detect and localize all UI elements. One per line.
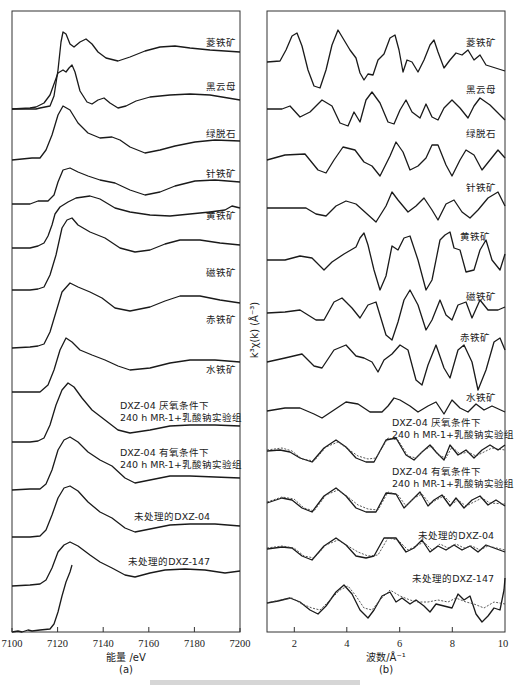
panel-b-xtick-label: 2 [292,638,297,649]
panel-b: k³χ(k) (Å⁻³) 2 4 6 8 10 波数/Å⁻¹ (b) [248,11,514,675]
panel-a-xtick-label: 7100 [2,638,23,649]
curve-label: DXZ-04 厌氧条件下 [392,417,481,428]
curve-label: 水铁矿 [206,364,236,375]
panel-b-y-axis-label: k³χ(k) (Å⁻³) [248,302,260,358]
panel-b-x-ticks [294,627,452,632]
panel-b-xtick-label: 10 [498,638,509,649]
curve-label: 针铁矿 [206,168,236,179]
curve-label: 绿脱石 [466,128,496,139]
xanes-curve-pyrite [12,196,240,248]
panel-a-xtick-label: 7200 [230,638,251,649]
xanes-curve-bottom-reference [12,565,72,632]
curve-label: 240 h MR-1+乳酸钠实验组 [120,412,242,423]
panel-b-xtick-label: 6 [397,638,402,649]
curve-label: 未处理的DXZ-147 [412,573,494,584]
panel-a-x-axis-label: 能量 /eV [106,651,146,663]
curve-label: DXZ-04 有氧条件下 [392,466,481,477]
curve-label: 绿脱石 [206,128,236,139]
curve-label: 赤铁矿 [460,332,490,343]
curve-label: DXZ-04 有氧条件下 [120,447,209,458]
curve-label: 240 h MR-1+乳酸钠实验组 [120,459,242,470]
curve-label: 针铁矿 [466,182,496,193]
panel-b-xtick-label: 4 [344,638,350,649]
curve-label: 黑云母 [206,81,236,92]
curve-label: 赤铁矿 [206,314,236,325]
curve-label: 菱铁矿 [466,37,496,48]
panel-b-x-axis-label: 波数/Å⁻¹ [366,651,406,663]
curve-label: 菱铁矿 [206,37,236,48]
panel-b-sublabel: (b) [379,664,393,675]
curve-label: 磁铁矿 [466,291,496,302]
curve-label: 水铁矿 [466,392,496,403]
xanes-curve-magnetite [12,218,240,290]
curve-label: 磁铁矿 [206,267,236,278]
figure: 7100 7120 7140 7160 7180 7200 能量 /eV (a)… [0,0,515,685]
panel-a-xtick-label: 7180 [184,638,205,649]
curve-label: DXZ-04 厌氧条件下 [120,400,209,411]
exafs-curve-goethite [267,192,505,222]
curve-label: 240 h MR-1+乳酸钠实验组 [392,478,514,489]
exafs-fit-dxz04-anaerobic [267,438,505,461]
exafs-curve-dxz04-aerobic [267,488,505,512]
panel-a-xtick-label: 7160 [138,638,159,649]
panel-a-xtick-label: 7120 [47,638,68,649]
figure-caption-truncated [150,680,360,685]
exafs-fit-dxz04-untreated [267,538,505,558]
curve-label: 黑云母 [466,84,496,95]
curve-label: 未处理的DXZ-147 [128,556,210,567]
exafs-curve-hematite [267,338,505,390]
panel-b-xtick-label: 8 [450,638,455,649]
curve-label: 未处理的DXZ-04 [418,530,494,541]
exafs-curve-biotite [267,92,505,126]
exafs-curve-dxz147-untreated [267,578,505,622]
curve-label: 黄铁矿 [206,210,236,221]
exafs-fit-dxz147-untreated [267,586,505,610]
curve-label: 240 h MR-1+乳酸钠实验组 [392,429,514,440]
panel-a-sublabel: (a) [119,664,133,675]
panel-a: 7100 7120 7140 7160 7180 7200 能量 /eV (a)… [2,11,251,675]
exafs-curve-nontronite [267,142,505,176]
curve-label: 未处理的DXZ-04 [134,511,210,522]
panel-a-xtick-label: 7140 [93,638,114,649]
curve-label: 黄铁矿 [460,231,490,242]
